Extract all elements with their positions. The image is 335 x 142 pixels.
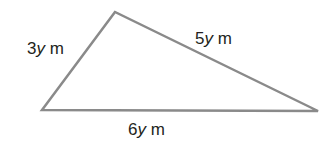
triangle-diagram: 3y m 5y m 6y m (0, 0, 335, 142)
side-label-left: 3y m (27, 39, 64, 58)
triangle-shape (42, 12, 318, 111)
side-label-right: 5y m (195, 29, 232, 48)
side-label-bottom: 6y m (128, 120, 165, 139)
